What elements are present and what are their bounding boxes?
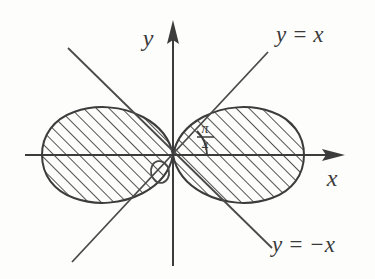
y-axis-label: y <box>141 25 154 51</box>
figure-canvas: π 4 y x y = x y = −x <box>0 0 375 279</box>
label-line-y-equals-minus-x: y = −x <box>270 232 336 257</box>
lemniscate-figure: π 4 y x y = x y = −x <box>0 0 375 279</box>
label-line-y-equals-x: y = x <box>274 22 324 47</box>
x-axis-label: x <box>326 165 338 191</box>
angle-label-denominator: 4 <box>202 138 209 153</box>
angle-label-numerator: π <box>201 121 209 136</box>
